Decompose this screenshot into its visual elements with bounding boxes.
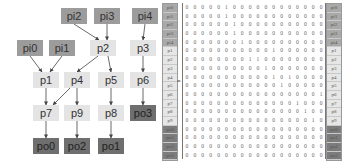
row-label-pi3: pi3 [163, 30, 177, 39]
row-label-p6: p6 [327, 91, 341, 100]
matrix-cell: 0 [317, 99, 325, 108]
matrix-cell: 0 [230, 99, 238, 108]
matrix-cell: 0 [309, 142, 317, 151]
matrix-cell: 0 [293, 107, 301, 116]
matrix-cell: 0 [183, 29, 191, 38]
matrix-cell: 0 [183, 73, 191, 82]
row-label-po3: po3 [327, 152, 341, 161]
matrix-cell: 0 [207, 125, 215, 134]
matrix-cell: 0 [183, 142, 191, 151]
edge-pi1-p1 [50, 56, 62, 72]
matrix-row: 000000000000000000 [183, 151, 325, 160]
matrix-cell: 0 [293, 64, 301, 73]
matrix-cell: 0 [215, 55, 223, 64]
matrix-cell: 0 [230, 38, 238, 47]
matrix-cell: 0 [309, 99, 317, 108]
matrix-cell: 0 [278, 73, 286, 82]
matrix-cell: 0 [230, 46, 238, 55]
matrix-cell: 0 [183, 64, 191, 73]
matrix-cell: 0 [262, 81, 270, 90]
row-label-pi3: pi3 [327, 30, 341, 39]
node-po2: po2 [64, 138, 90, 154]
matrix-row: 000000000010000000 [183, 64, 325, 73]
matrix-cell: 0 [191, 12, 199, 21]
matrix-cell: 0 [301, 133, 309, 142]
matrix-cell: 0 [199, 107, 207, 116]
matrix-cell: 0 [230, 90, 238, 99]
matrix-cell: 0 [278, 99, 286, 108]
matrix-cell: 0 [270, 151, 278, 160]
matrix-cell: 0 [222, 20, 230, 29]
matrix-cell: 0 [207, 29, 215, 38]
matrix-cell: 0 [215, 81, 223, 90]
matrix-cell: 0 [270, 20, 278, 29]
matrix-cell: 0 [270, 38, 278, 47]
matrix-cell: 0 [183, 107, 191, 116]
matrix-cell: 0 [230, 116, 238, 125]
matrix-cell: 0 [199, 29, 207, 38]
matrix-cell: 0 [293, 81, 301, 90]
matrix-cell: 0 [293, 116, 301, 125]
matrix-cell: 0 [270, 64, 278, 73]
matrix-cell: 0 [183, 99, 191, 108]
matrix-cell: 0 [238, 125, 246, 134]
matrix-cell: 0 [254, 90, 262, 99]
matrix-cell: 0 [254, 142, 262, 151]
matrix-cell: 1 [222, 3, 230, 12]
row-label-p9: p9 [163, 117, 177, 126]
dag-diagram: pi0pi1pi2pi3pi4p1p2p3p4p5p6p7p8p9po0po1p… [0, 0, 162, 163]
matrix-cell: 0 [309, 64, 317, 73]
matrix-cell: 0 [293, 29, 301, 38]
matrix-cell: 0 [293, 38, 301, 47]
matrix-cell: 0 [238, 151, 246, 160]
matrix-cell: 0 [215, 116, 223, 125]
adjacency-matrix: 0000010000000000000000010000000000000000… [182, 3, 326, 159]
matrix-cell: 0 [254, 64, 262, 73]
matrix-cell: 0 [191, 55, 199, 64]
matrix-cell: 0 [254, 133, 262, 142]
matrix-cell: 0 [199, 55, 207, 64]
matrix-cell: 0 [246, 3, 254, 12]
row-label-p5: p5 [327, 82, 341, 91]
matrix-cell: 0 [286, 116, 294, 125]
matrix-cell: 0 [286, 64, 294, 73]
edge-pi4-p3 [143, 24, 145, 40]
matrix-cell: 0 [246, 64, 254, 73]
matrix-cell: 0 [246, 151, 254, 160]
matrix-cell: 0 [293, 73, 301, 82]
matrix-cell: 0 [230, 142, 238, 151]
matrix-row: 000001000000000000 [183, 12, 325, 21]
matrix-cell: 0 [191, 20, 199, 29]
matrix-cell: 0 [278, 12, 286, 21]
matrix-cell: 0 [317, 125, 325, 134]
matrix-cell: 0 [286, 133, 294, 142]
matrix-cell: 0 [222, 107, 230, 116]
matrix-cell: 0 [215, 142, 223, 151]
edge-pi2-p2 [74, 24, 99, 40]
matrix-cell: 0 [286, 125, 294, 134]
matrix-cell: 0 [246, 99, 254, 108]
matrix-cell: 0 [222, 73, 230, 82]
matrix-cell: 0 [317, 151, 325, 160]
matrix-cell: 0 [199, 46, 207, 55]
matrix-row: 000000000000000001 [183, 90, 325, 99]
matrix-cell: 0 [301, 142, 309, 151]
matrix-cell: 0 [309, 38, 317, 47]
matrix-row: 000000000001000000 [183, 46, 325, 55]
matrix-cell: 0 [293, 12, 301, 21]
matrix-cell: 0 [183, 20, 191, 29]
matrix-cell: 0 [301, 151, 309, 160]
matrix-cell: 0 [222, 90, 230, 99]
matrix-cell: 0 [278, 46, 286, 55]
node-p9: p9 [64, 105, 90, 121]
matrix-cell: 0 [270, 55, 278, 64]
matrix-cell: 1 [286, 73, 294, 82]
row-label-po3: po3 [163, 152, 177, 161]
matrix-cell: 0 [254, 73, 262, 82]
matrix-cell: 1 [293, 99, 301, 108]
matrix-cell: 0 [207, 99, 215, 108]
matrix-cell: 0 [309, 125, 317, 134]
matrix-cell: 0 [238, 81, 246, 90]
matrix-cell: 0 [301, 125, 309, 134]
edge-p4-p7 [53, 88, 70, 105]
